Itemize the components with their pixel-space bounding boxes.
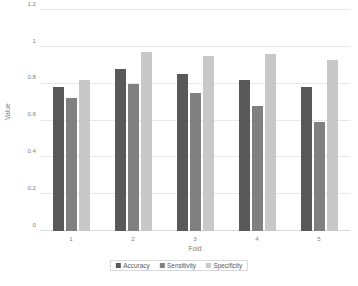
bar-group: 4 bbox=[226, 10, 288, 231]
bar-accuracy-fold-1[interactable] bbox=[53, 87, 64, 231]
legend-swatch-icon bbox=[116, 263, 121, 268]
y-axis-tick-label: 0.6 bbox=[27, 111, 36, 117]
legend-label: Specificity bbox=[213, 263, 242, 269]
bar-sensitivity-fold-4[interactable] bbox=[252, 106, 263, 231]
legend-item-sensitivity[interactable]: Sensitivity bbox=[160, 263, 196, 269]
plot-area: 00.20.40.60.811.2 12345 bbox=[40, 10, 350, 231]
legend-item-specificity[interactable]: Specificity bbox=[206, 263, 242, 269]
legend-swatch-icon bbox=[160, 263, 165, 268]
bar-slot bbox=[128, 10, 139, 231]
bar-specificity-fold-5[interactable] bbox=[327, 60, 338, 231]
bar-sensitivity-fold-5[interactable] bbox=[314, 122, 325, 231]
bar-slot bbox=[314, 10, 325, 231]
bar-specificity-fold-4[interactable] bbox=[265, 54, 276, 231]
x-axis-tick-label: 2 bbox=[131, 236, 134, 242]
bar-slot bbox=[177, 10, 188, 231]
legend-swatch-icon bbox=[206, 263, 211, 268]
x-axis-tick-label: 1 bbox=[69, 236, 72, 242]
bar-slot bbox=[66, 10, 77, 231]
bar-slot bbox=[252, 10, 263, 231]
bar-group: 5 bbox=[288, 10, 350, 231]
y-axis-tick-label: 0 bbox=[33, 222, 36, 228]
bar-sensitivity-fold-2[interactable] bbox=[128, 84, 139, 231]
bar-slot bbox=[115, 10, 126, 231]
bar-sensitivity-fold-3[interactable] bbox=[190, 93, 201, 231]
bar-groups: 12345 bbox=[40, 10, 350, 231]
bar-slot bbox=[190, 10, 201, 231]
bar-group: 3 bbox=[164, 10, 226, 231]
bar-slot bbox=[265, 10, 276, 231]
bar-slot bbox=[239, 10, 250, 231]
y-axis-title: Value bbox=[5, 103, 12, 120]
x-axis-tick-label: 4 bbox=[255, 236, 258, 242]
y-axis-tick-label: 0.8 bbox=[27, 74, 36, 80]
y-axis-tick-label: 1 bbox=[33, 38, 36, 44]
bar-slot bbox=[203, 10, 214, 231]
bar-group: 1 bbox=[40, 10, 102, 231]
bar-slot bbox=[53, 10, 64, 231]
bar-accuracy-fold-3[interactable] bbox=[177, 74, 188, 231]
legend-label: Accuracy bbox=[123, 263, 149, 269]
legend-item-accuracy[interactable]: Accuracy bbox=[116, 263, 150, 269]
y-axis-tick-label: 0.2 bbox=[27, 185, 36, 191]
bar-slot bbox=[327, 10, 338, 231]
bar-specificity-fold-1[interactable] bbox=[79, 80, 90, 231]
bar-accuracy-fold-2[interactable] bbox=[115, 69, 126, 231]
x-axis-title: Fold bbox=[40, 246, 350, 253]
y-axis-tick-label: 1.2 bbox=[27, 1, 36, 7]
legend-label: Sensitivity bbox=[167, 263, 196, 269]
bar-chart: Value 00.20.40.60.811.2 12345 Fold Accur… bbox=[0, 0, 358, 286]
bar-specificity-fold-3[interactable] bbox=[203, 56, 214, 231]
bar-slot bbox=[79, 10, 90, 231]
bar-accuracy-fold-5[interactable] bbox=[301, 87, 312, 231]
bar-group: 2 bbox=[102, 10, 164, 231]
chart-legend: AccuracySensitivitySpecificity bbox=[110, 260, 248, 271]
bar-slot bbox=[301, 10, 312, 231]
y-axis-tick-label: 0.4 bbox=[27, 148, 36, 154]
bar-sensitivity-fold-1[interactable] bbox=[66, 98, 77, 231]
bar-specificity-fold-2[interactable] bbox=[141, 52, 152, 231]
bar-slot bbox=[141, 10, 152, 231]
bar-accuracy-fold-4[interactable] bbox=[239, 80, 250, 231]
x-axis-tick-label: 5 bbox=[317, 236, 320, 242]
x-axis-tick-label: 3 bbox=[193, 236, 196, 242]
